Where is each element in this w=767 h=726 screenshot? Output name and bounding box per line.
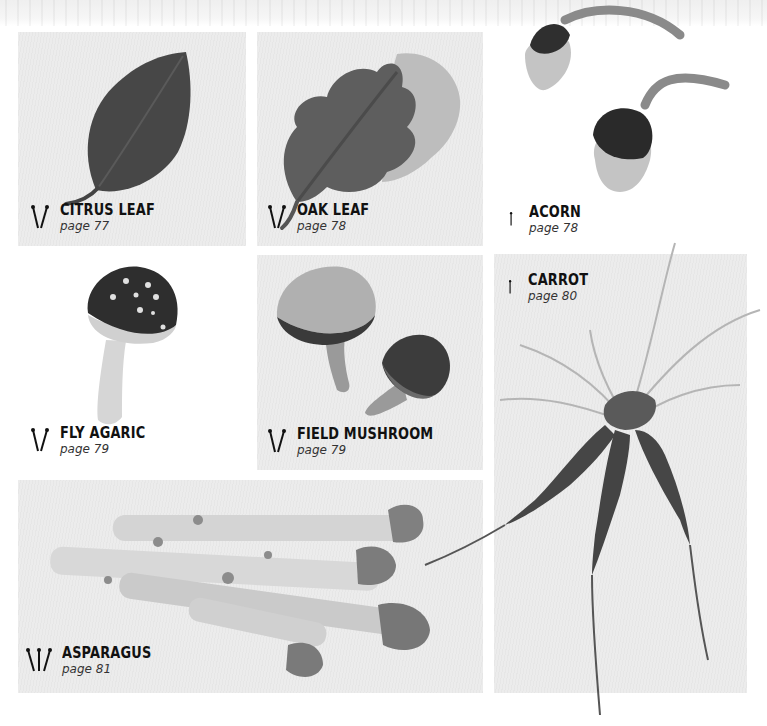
project-title[interactable]: CITRUS LEAF: [60, 202, 155, 219]
project-title[interactable]: ASPARAGUS: [62, 645, 151, 662]
knitting-needles-icon: [507, 206, 521, 232]
label-oak-leaf: OAK LEAF page 78: [265, 202, 381, 233]
project-card-acorn[interactable]: ACORN page 78: [495, 0, 767, 246]
knitting-needles-icon: [24, 647, 54, 673]
project-title[interactable]: ACORN: [529, 204, 581, 221]
project-card-citrus-leaf[interactable]: CITRUS LEAF page 77: [18, 32, 246, 246]
label-citrus-leaf: CITRUS LEAF page 77: [28, 202, 170, 233]
knitting-needles-icon: [265, 204, 289, 230]
project-title[interactable]: FLY AGARIC: [60, 425, 145, 442]
knitting-needles-icon: [265, 428, 289, 454]
page-reference: page 78: [529, 221, 589, 235]
label-asparagus: ASPARAGUS page 81: [24, 645, 166, 676]
label-acorn: ACORN page 78: [507, 204, 589, 235]
project-title[interactable]: FIELD MUSHROOM: [297, 426, 433, 443]
project-title[interactable]: OAK LEAF: [297, 202, 369, 219]
page-reference: page 77: [60, 219, 170, 233]
knitting-needles-icon: [28, 204, 52, 230]
carrot-photo: [420, 235, 767, 726]
project-card-fly-agaric[interactable]: FLY AGARIC page 79: [18, 255, 246, 470]
project-card-oak-leaf[interactable]: OAK LEAF page 78: [257, 32, 483, 246]
page-reference: page 78: [297, 219, 381, 233]
label-fly-agaric: FLY AGARIC page 79: [28, 425, 159, 456]
knitting-needles-icon: [28, 427, 52, 453]
page-reference: page 81: [62, 662, 166, 676]
page-reference: page 79: [60, 442, 159, 456]
project-card-asparagus[interactable]: ASPARAGUS page 81: [18, 480, 483, 693]
